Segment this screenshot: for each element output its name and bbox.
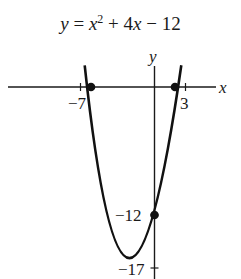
y-axis-label: y — [147, 47, 157, 66]
x-tick-label-neg7: −7 — [68, 94, 87, 113]
plot-area: x y −7 3 −12 −17 — [0, 0, 241, 279]
x-axis-label: x — [218, 78, 227, 97]
x-intercept-point-neg6 — [87, 83, 96, 92]
y-intercept-point — [150, 211, 159, 220]
y-tick-label-neg12: −12 — [115, 206, 142, 225]
parabola-curve — [85, 65, 182, 258]
x-intercept-point-2 — [171, 83, 180, 92]
x-tick-label-3: 3 — [180, 94, 189, 113]
y-tick-label-neg17: −17 — [118, 260, 145, 279]
